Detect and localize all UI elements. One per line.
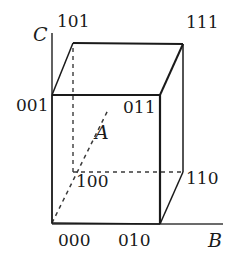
axis-label-c: C: [33, 25, 48, 44]
vertex-label-010: 010: [118, 232, 150, 249]
vertex-label-101: 101: [57, 13, 89, 30]
vertex-label-110: 110: [186, 170, 218, 187]
vertex-label-100: 100: [76, 173, 108, 190]
cube-diagram: 101 111 001 011 100 110 000 010 C A B: [0, 0, 240, 277]
edge-001-101: [52, 43, 73, 95]
edge-101-111: [73, 43, 183, 44]
vertex-label-011: 011: [123, 99, 155, 116]
edge-011-111: [160, 44, 183, 95]
vertex-label-111: 111: [186, 14, 218, 31]
vertex-label-001: 001: [16, 97, 48, 114]
axis-label-a: A: [95, 123, 109, 142]
vertex-label-000: 000: [58, 232, 90, 249]
edge-000-010: [52, 223, 160, 224]
axis-label-b: B: [208, 231, 222, 250]
edge-110-010: [160, 172, 183, 224]
